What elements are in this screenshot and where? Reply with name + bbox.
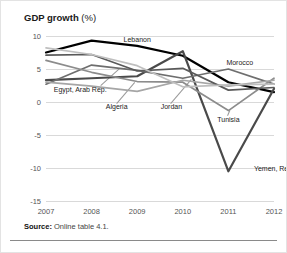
series-label-jordan: Jordan xyxy=(161,102,182,109)
y-tick-label: 10 xyxy=(33,32,41,41)
series-line xyxy=(46,48,274,87)
source-note: Source: Online table 4.1. xyxy=(24,222,109,231)
y-tick-label: 0 xyxy=(37,98,41,107)
chart-title-main: GDP growth xyxy=(24,12,79,23)
y-tick-label: 5 xyxy=(37,65,41,74)
y-tick-label: -15 xyxy=(30,197,41,206)
source-text: Online table 4.1. xyxy=(54,222,109,231)
chart-title: GDP growth (%) xyxy=(24,12,96,23)
series-label-tunisia: Tunisia xyxy=(217,116,239,123)
series-label-algeria: Algeria xyxy=(106,102,128,109)
x-tick-label: 2007 xyxy=(38,207,55,216)
source-label: Source: xyxy=(24,222,52,231)
chart-title-unit: (%) xyxy=(81,12,96,23)
plot-area: 1050-5-10-15 200720082009201020112012 Le… xyxy=(46,36,274,201)
x-tick-label: 2008 xyxy=(83,207,100,216)
x-tick-label: 2010 xyxy=(174,207,191,216)
x-tick-label: 2012 xyxy=(266,207,283,216)
footer-rule xyxy=(10,240,277,241)
x-tick-label: 2011 xyxy=(220,207,236,216)
y-tick-label: -5 xyxy=(34,131,41,140)
x-tick-label: 2009 xyxy=(129,207,146,216)
y-tick-label: -10 xyxy=(30,164,41,173)
gridline xyxy=(46,201,274,202)
figure-gdp-growth: GDP growth (%) 1050-5-10-15 200720082009… xyxy=(0,0,287,253)
series-label-yemen-rep: Yemen, Rep. xyxy=(254,165,287,172)
series-label-morocco: Morocco xyxy=(226,58,253,65)
series-label-lebanon: Lebanon xyxy=(124,35,151,42)
series-label-egypt-arab-rep: Egypt, Arab Rep. xyxy=(54,85,107,92)
